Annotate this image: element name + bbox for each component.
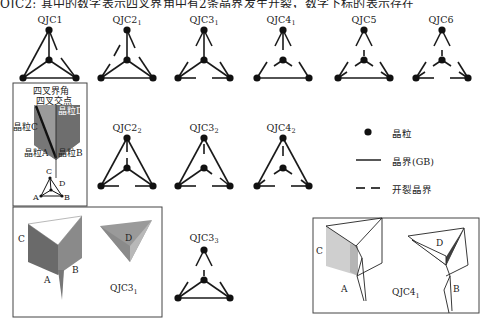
- qjc4ex-a: A: [341, 284, 348, 294]
- grain-a-label: 晶粒A: [24, 146, 49, 159]
- qjc3ex-a: A: [44, 275, 51, 285]
- legend-gb-label: 晶界(GB): [392, 154, 434, 168]
- qjc4ex-d: D: [436, 238, 443, 248]
- legend-cracked-label: 开裂晶界: [392, 182, 432, 196]
- grain-b-label: 晶粒B: [58, 146, 83, 159]
- diagram-qjc3-2: [178, 138, 230, 186]
- diagram-qjc2-1: [101, 30, 153, 78]
- diagram-qjc4-2: [257, 138, 309, 186]
- qjc4ex-label: QJC41: [392, 287, 420, 300]
- grain-d-label: 晶粒D: [58, 104, 83, 117]
- mini-c: C: [46, 167, 52, 176]
- qjc3ex-label: QJC31: [110, 283, 138, 296]
- qjc4ex-b: B: [453, 284, 460, 294]
- mini-d: D: [59, 179, 65, 188]
- legend-grain-dot: [364, 128, 371, 135]
- grain-c-label: 晶粒C: [13, 120, 38, 133]
- diagram-qjc1: [23, 30, 76, 78]
- legend-grain-label: 晶粒: [392, 126, 412, 140]
- mini-b: B: [64, 193, 70, 202]
- diagram-qjc5: [338, 30, 390, 78]
- diagram-qjc4-1: [257, 30, 309, 78]
- qjc3ex-b: B: [72, 265, 79, 275]
- diagram-qjc6: [416, 30, 468, 78]
- diagram-qjc2-2: [101, 138, 153, 186]
- mini-a: A: [33, 193, 39, 202]
- diagram-qjc3-3: [178, 250, 230, 298]
- qjc3ex-d: D: [125, 233, 132, 243]
- qjc4ex-c: C: [316, 246, 323, 256]
- qjc3ex-c: C: [18, 234, 25, 244]
- diagram-qjc3-1: [178, 30, 230, 78]
